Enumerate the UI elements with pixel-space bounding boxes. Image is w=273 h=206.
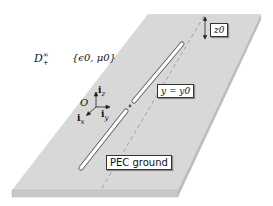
axis-z-label: iz — [98, 85, 105, 98]
line-label: y = y0 — [157, 84, 194, 98]
medium-parameters: {ϵ0, μ0} — [72, 52, 116, 63]
feed-point-icon — [129, 105, 132, 108]
diagram-canvas — [0, 0, 273, 206]
origin-label: O — [80, 97, 88, 108]
domain-label: D∞+ — [34, 51, 49, 67]
height-label: z0 — [210, 23, 228, 37]
axis-x-label: ix — [77, 113, 84, 126]
pec-ground-slab-front — [12, 190, 178, 197]
axis-y-label: iy — [101, 109, 108, 122]
pec-ground-label: PEC ground — [106, 155, 172, 170]
